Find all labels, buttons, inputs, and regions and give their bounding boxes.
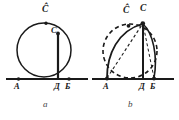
point-a-b xyxy=(105,77,109,81)
label-b-point-b: Б xyxy=(150,81,155,91)
label-b-point-c-hat: Ĉ xyxy=(123,5,129,15)
curve-b-to-c-b xyxy=(143,24,155,78)
point-c-hat-b xyxy=(127,24,131,28)
label-a-point-a: A xyxy=(14,81,20,91)
point-b-b xyxy=(152,77,156,81)
label-b-point-a: A xyxy=(103,81,109,91)
label-b-point-c: C xyxy=(140,3,146,13)
label-a-point-b: Б xyxy=(65,81,70,91)
caption-panel-a: a xyxy=(43,99,48,109)
point-c-b xyxy=(141,21,146,26)
circle-solid-a xyxy=(17,23,71,77)
point-c-hat-a xyxy=(44,22,47,25)
geometric-figure xyxy=(0,0,179,120)
panel-a xyxy=(6,22,88,81)
label-a-point-c: C xyxy=(51,25,57,35)
panel-b xyxy=(92,21,174,80)
label-a-point-d: Д xyxy=(54,81,60,91)
label-b-point-d: Д xyxy=(139,81,145,91)
label-a-point-c-hat: Ĉ xyxy=(42,4,48,14)
caption-panel-b: b xyxy=(128,99,133,109)
